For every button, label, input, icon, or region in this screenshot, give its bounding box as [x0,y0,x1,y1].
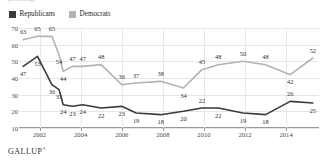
gridline-horizontal [19,128,319,129]
data-point-label: 20 [180,116,186,122]
data-point-label: 23 [119,111,125,117]
plot-wrapper: 70605040302010 6365655444474748363738344… [0,28,323,128]
x-axis-tick-label: 2010 [197,131,210,138]
data-point-label: 47 [20,71,26,77]
x-axis-tick-label: 2012 [238,131,251,138]
data-point-label: 65 [49,26,55,32]
data-point-label: 48 [215,54,221,60]
data-point-label: 44 [60,76,66,82]
data-point-label: 48 [98,54,104,60]
y-axis-tick-label: 60 [11,41,18,48]
data-point-label: 33 [56,94,62,100]
data-point-label: 65 [34,26,40,32]
x-axis-tick-label: 2002 [33,131,46,138]
data-point-label: 38 [158,71,164,77]
gallup-brand-footer: GALLUP® [8,146,46,156]
data-point-label: 24 [60,109,66,115]
data-point-label: 52 [310,47,316,53]
x-axis: 2002200420062008201020122014 [19,131,319,143]
data-point-label: 34 [180,92,186,98]
legend-item-democrats[interactable]: Democrats [69,10,111,18]
data-point-label: 42 [287,79,293,85]
legend-swatch-icon-republicans [9,11,16,18]
x-axis-tick-label: 2004 [74,131,87,138]
legend-swatch-icon-democrats [69,11,76,18]
data-point-label: 18 [158,119,164,125]
brand-text: GALLUP [8,147,43,156]
data-point-label: 53 [34,61,40,67]
y-axis-tick-label: 10 [11,125,18,132]
legend-label-republicans: Republicans [20,10,56,18]
data-point-label: 37 [133,72,139,78]
data-point-label: 23 [69,111,75,117]
series-line-republicans [23,56,313,114]
legend-label-democrats: Democrats [80,10,111,18]
data-point-label: 22 [215,112,221,118]
y-axis-tick-label: 30 [11,91,18,98]
data-point-label: 54 [56,59,62,65]
trademark-icon: ® [43,146,47,151]
data-point-label: 18 [262,119,268,125]
data-point-label: 48 [262,54,268,60]
y-axis-tick-label: 50 [11,58,18,65]
data-point-label: 45 [199,59,205,65]
chart-legend: Republicans Democrats [9,10,111,18]
legend-item-republicans[interactable]: Republicans [9,10,55,18]
data-point-label: 24 [79,109,85,115]
data-point-label: 26 [287,91,293,97]
x-axis-tick-label: 2006 [115,131,128,138]
data-point-label: 22 [199,97,205,103]
x-axis-tick-label: 2014 [280,131,293,138]
clipped-headline-text: percentage [8,0,36,3]
y-axis: 70605040302010 [0,28,19,128]
data-point-label: 22 [98,112,104,118]
x-axis-tick-label: 2008 [156,131,169,138]
data-point-label: 50 [240,51,246,57]
data-point-label: 19 [133,117,139,123]
data-point-label: 25 [310,107,316,113]
y-axis-tick-label: 70 [11,25,18,32]
data-point-label: 36 [49,89,55,95]
data-point-label: 63 [20,29,26,35]
gallup-line-chart: percentage Republicans Democrats 7060504… [0,0,323,162]
data-point-label: 19 [240,117,246,123]
y-axis-tick-label: 20 [11,108,18,115]
series-line-democrats [23,36,313,88]
y-axis-tick-label: 40 [11,75,18,82]
data-point-label: 36 [119,74,125,80]
data-point-label: 47 [69,56,75,62]
data-point-label: 47 [79,56,85,62]
plot-area: 6365655444474748363738344548504842524753… [19,28,319,128]
